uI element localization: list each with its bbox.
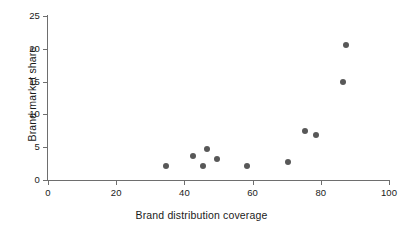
x-axis-line [47, 180, 390, 181]
y-tick-mark [43, 16, 47, 17]
y-axis-title: Brand market share [26, 14, 38, 174]
data-point [204, 146, 210, 152]
data-point [313, 132, 319, 138]
plot-area [48, 16, 389, 180]
data-point [340, 79, 346, 85]
x-tick-mark [184, 181, 185, 185]
x-axis-title: Brand distribution coverage [0, 209, 403, 221]
y-tick-mark [43, 147, 47, 148]
x-tick-label: 80 [301, 188, 341, 198]
data-point [214, 156, 220, 162]
y-tick-mark [43, 180, 47, 181]
y-tick-mark [43, 114, 47, 115]
scatter-chart: 0510152025 020406080100 Brand distributi… [0, 0, 403, 234]
x-tick-mark [116, 181, 117, 185]
x-tick-mark [48, 181, 49, 185]
x-tick-label: 20 [96, 188, 136, 198]
x-tick-mark [253, 181, 254, 185]
y-tick-mark [43, 82, 47, 83]
x-tick-label: 60 [233, 188, 273, 198]
x-tick-label: 0 [28, 188, 68, 198]
y-tick-label: 0 [14, 175, 40, 185]
data-point [163, 163, 169, 169]
y-tick-mark [43, 49, 47, 50]
x-tick-label: 40 [164, 188, 204, 198]
data-point [200, 163, 206, 169]
x-tick-label: 100 [369, 188, 403, 198]
x-tick-mark [321, 181, 322, 185]
x-tick-mark [389, 181, 390, 185]
